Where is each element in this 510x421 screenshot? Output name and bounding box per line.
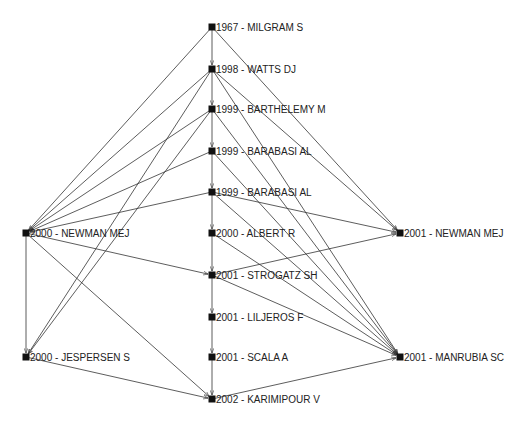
edge-barabasi1-to-newman2000 bbox=[30, 151, 212, 231]
edge-watts-to-jespersen bbox=[28, 69, 212, 354]
citation-network-diagram: 1967 - MILGRAM S1998 - WATTS DJ1999 - BA… bbox=[0, 0, 510, 421]
edge-milgram-to-newman2001 bbox=[212, 27, 397, 230]
node-marker-icon[interactable] bbox=[23, 230, 30, 237]
node-marker-icon[interactable] bbox=[397, 354, 404, 361]
node-marker-icon[interactable] bbox=[23, 354, 30, 361]
node-marker-icon[interactable] bbox=[209, 272, 216, 279]
node-karimipour[interactable]: 2002 - KARIMIPOUR V bbox=[209, 394, 321, 405]
node-label: 2001 - STROGATZ SH bbox=[216, 270, 318, 281]
node-marker-icon[interactable] bbox=[209, 106, 216, 113]
node-label: 2001 - MANRUBIA SC bbox=[404, 352, 504, 363]
node-label: 1999 - BARABASI AL bbox=[216, 146, 312, 157]
edge-strogatz-to-newman2001 bbox=[212, 234, 396, 275]
edge-jespersen-to-karimipour bbox=[26, 357, 208, 398]
node-liljeros[interactable]: 2001 - LILJEROS F bbox=[209, 312, 304, 323]
node-barthelemy[interactable]: 1999 - BARTHELEMY M bbox=[209, 104, 326, 115]
node-label: 2000 - ALBERT R bbox=[216, 228, 295, 239]
edge-barabasi1-to-manrubia bbox=[212, 151, 397, 354]
node-label: 2001 - NEWMAN MEJ bbox=[404, 228, 503, 239]
node-marker-icon[interactable] bbox=[397, 230, 404, 237]
node-jespersen[interactable]: 2000 - JESPERSEN S bbox=[23, 352, 131, 363]
edge-karimipour-to-manrubia bbox=[212, 358, 396, 399]
node-strogatz[interactable]: 2001 - STROGATZ SH bbox=[209, 270, 318, 281]
node-label: 1967 - MILGRAM S bbox=[216, 22, 304, 33]
node-barabasi1[interactable]: 1999 - BARABASI AL bbox=[209, 146, 313, 157]
node-marker-icon[interactable] bbox=[209, 396, 216, 403]
node-marker-icon[interactable] bbox=[209, 24, 216, 31]
edge-newman2000-to-strogatz bbox=[26, 233, 208, 274]
node-label: 1999 - BARTHELEMY M bbox=[216, 104, 326, 115]
node-label: 1998 - WATTS DJ bbox=[216, 64, 296, 75]
node-label: 2002 - KARIMIPOUR V bbox=[216, 394, 320, 405]
node-manrubia[interactable]: 2001 - MANRUBIA SC bbox=[397, 352, 505, 363]
node-label: 2000 - JESPERSEN S bbox=[30, 352, 130, 363]
node-label: 2001 - LILJEROS F bbox=[216, 312, 303, 323]
node-newman2001[interactable]: 2001 - NEWMAN MEJ bbox=[397, 228, 504, 239]
nodes-layer: 1967 - MILGRAM S1998 - WATTS DJ1999 - BA… bbox=[23, 22, 505, 405]
node-marker-icon[interactable] bbox=[209, 314, 216, 321]
node-label: 2000 - NEWMAN MEJ bbox=[30, 228, 129, 239]
node-marker-icon[interactable] bbox=[209, 230, 216, 237]
node-newman2000[interactable]: 2000 - NEWMAN MEJ bbox=[23, 228, 130, 239]
node-watts[interactable]: 1998 - WATTS DJ bbox=[209, 64, 297, 75]
node-albert[interactable]: 2000 - ALBERT R bbox=[209, 228, 296, 239]
edge-albert-to-manrubia bbox=[212, 233, 397, 355]
node-marker-icon[interactable] bbox=[209, 66, 216, 73]
edge-milgram-to-newman2000 bbox=[29, 27, 212, 230]
node-marker-icon[interactable] bbox=[209, 189, 216, 196]
node-scala[interactable]: 2001 - SCALA A bbox=[209, 352, 289, 363]
node-marker-icon[interactable] bbox=[209, 148, 216, 155]
node-label: 1999 - BARABASI AL bbox=[216, 187, 312, 198]
edges-layer bbox=[26, 27, 398, 399]
node-barabasi2[interactable]: 1999 - BARABASI AL bbox=[209, 187, 313, 198]
node-label: 2001 - SCALA A bbox=[216, 352, 289, 363]
node-marker-icon[interactable] bbox=[209, 354, 216, 361]
node-milgram[interactable]: 1967 - MILGRAM S bbox=[209, 22, 304, 33]
edge-watts-to-newman2000 bbox=[29, 69, 212, 230]
